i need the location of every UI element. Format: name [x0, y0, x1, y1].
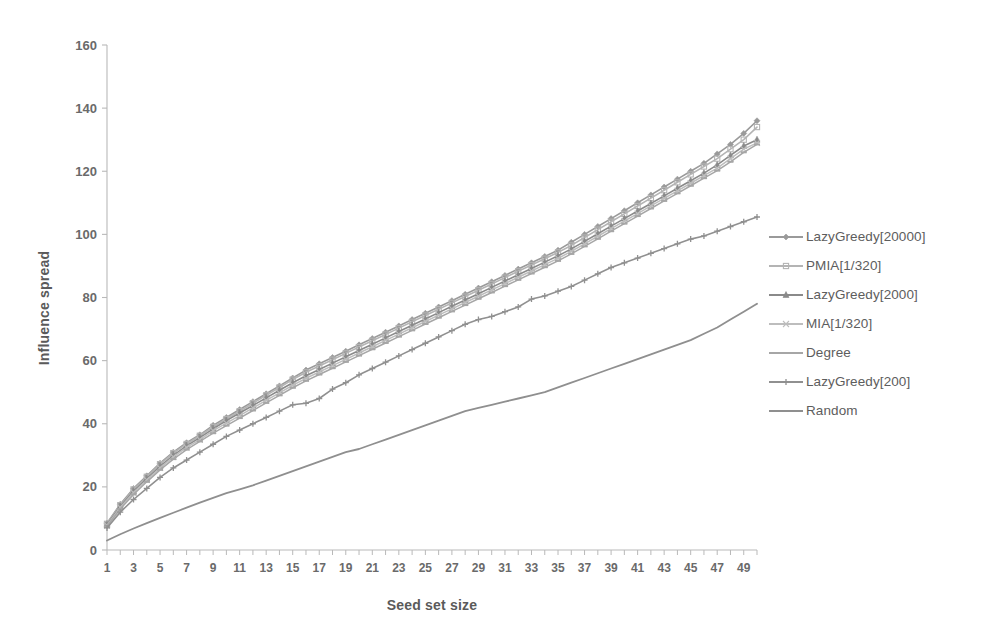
y-tick-label: 80	[83, 290, 97, 305]
x-tick-label: 33	[525, 561, 539, 575]
x-tick-label: 31	[498, 561, 512, 575]
series-line	[107, 140, 757, 525]
legend-label: LazyGreedy[2000]	[806, 287, 918, 302]
series-line	[107, 127, 757, 524]
y-tick-label: 160	[75, 38, 97, 53]
series-line	[107, 217, 757, 528]
legend-label: Random	[806, 403, 858, 418]
y-tick-label: 60	[83, 353, 97, 368]
x-tick-label: 35	[551, 561, 565, 575]
legend-marker-icon	[768, 346, 804, 360]
legend-marker-icon	[768, 230, 804, 244]
legend-item[interactable]: PMIA[1/320]	[768, 251, 993, 280]
series-5	[104, 214, 760, 531]
x-tick-label: 43	[657, 561, 671, 575]
legend-item[interactable]: LazyGreedy[2000]	[768, 280, 993, 309]
legend-label: LazyGreedy[20000]	[806, 229, 926, 244]
legend-label: LazyGreedy[200]	[806, 374, 910, 389]
legend-item[interactable]: Degree	[768, 338, 993, 367]
x-tick-label: 49	[737, 561, 751, 575]
x-tick-label: 9	[210, 561, 217, 575]
axis-layer: 0204060801001201401601357911131517192123…	[75, 38, 757, 576]
x-tick-label: 17	[313, 561, 327, 575]
legend-label: Degree	[806, 345, 851, 360]
series-line	[107, 121, 757, 523]
x-tick-label: 5	[157, 561, 164, 575]
y-tick-label: 20	[83, 479, 97, 494]
x-tick-label: 21	[366, 561, 380, 575]
x-tick-label: 29	[472, 561, 486, 575]
series-0	[104, 118, 760, 526]
x-tick-label: 41	[631, 561, 645, 575]
x-tick-label: 11	[233, 561, 246, 575]
x-tick-label: 37	[578, 561, 592, 575]
series-layer	[104, 118, 760, 541]
x-tick-label: 1	[104, 561, 111, 575]
y-tick-label: 40	[83, 416, 97, 431]
x-tick-label: 47	[711, 561, 725, 575]
x-tick-label: 3	[130, 561, 137, 575]
legend-item[interactable]: LazyGreedy[200]	[768, 367, 993, 396]
series-2	[104, 136, 760, 527]
y-tick-label: 120	[75, 164, 97, 179]
legend-label: MIA[1/320]	[806, 316, 872, 331]
legend-item[interactable]: LazyGreedy[20000]	[768, 222, 993, 251]
x-tick-label: 27	[445, 561, 459, 575]
series-1	[104, 124, 759, 526]
legend-item[interactable]: Random	[768, 396, 993, 425]
x-tick-label: 39	[604, 561, 618, 575]
legend-marker-icon	[768, 317, 804, 331]
x-tick-label: 45	[684, 561, 698, 575]
y-tick-label: 100	[75, 227, 97, 242]
series-line	[107, 143, 757, 526]
legend-item[interactable]: MIA[1/320]	[768, 309, 993, 338]
x-tick-label: 19	[339, 561, 353, 575]
chart-legend: LazyGreedy[20000]PMIA[1/320]LazyGreedy[2…	[768, 222, 993, 425]
x-tick-label: 15	[286, 561, 300, 575]
legend-marker-icon	[768, 375, 804, 389]
x-tick-label: 7	[183, 561, 190, 575]
x-tick-label: 25	[419, 561, 433, 575]
legend-marker-icon	[768, 288, 804, 302]
legend-label: PMIA[1/320]	[806, 258, 881, 273]
series-4	[104, 144, 760, 526]
x-tick-label: 13	[260, 561, 274, 575]
chart-figure: Influence spread Seed set size 020406080…	[0, 0, 995, 639]
x-tick-label: 23	[392, 561, 406, 575]
y-tick-label: 140	[75, 101, 97, 116]
y-tick-label: 0	[90, 543, 97, 558]
legend-marker-icon	[768, 259, 804, 273]
legend-marker-icon	[768, 404, 804, 418]
